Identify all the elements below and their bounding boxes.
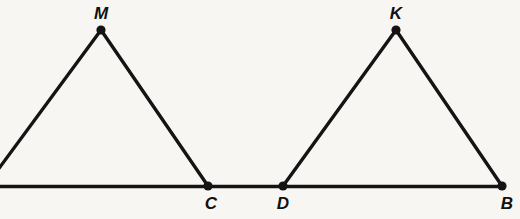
segments-group bbox=[0, 30, 502, 186]
point-label-k: K bbox=[390, 5, 402, 22]
point-label-m: M bbox=[94, 5, 108, 22]
segment-M-C bbox=[101, 30, 208, 186]
vertex-dot-m bbox=[96, 25, 105, 34]
vertex-dot-k bbox=[391, 25, 400, 34]
segment-M-left-leg bbox=[0, 30, 101, 186]
segment-K-B bbox=[396, 30, 502, 186]
point-label-b: B bbox=[501, 195, 513, 212]
geometry-figure: MCDKB bbox=[0, 0, 520, 219]
point-label-c: C bbox=[205, 195, 217, 212]
segment-D-K bbox=[283, 30, 396, 186]
vertex-dot-c bbox=[203, 181, 212, 190]
point-label-d: D bbox=[277, 195, 289, 212]
vertex-dot-d bbox=[278, 181, 287, 190]
vertex-dot-b bbox=[497, 181, 506, 190]
vertex-dots-group bbox=[96, 25, 506, 190]
figure-canvas bbox=[0, 0, 520, 219]
